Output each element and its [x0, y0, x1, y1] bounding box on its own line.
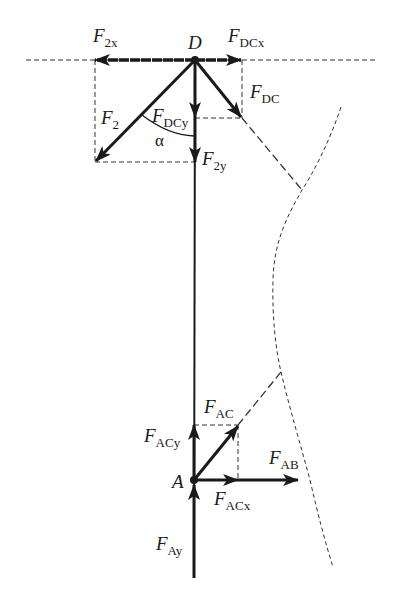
label-f2y: F2y: [201, 148, 227, 173]
label-f2x: F2x: [92, 25, 118, 50]
label-fdc: FDC: [249, 81, 280, 106]
member-dc-extension: [242, 118, 302, 190]
arrow-fac: [194, 426, 238, 480]
member-lines: [238, 118, 302, 425]
diagram-canvas: D A F2x FDCx FDC F2 FDCy α F2y FAC FACy …: [0, 0, 394, 606]
label-fac: FAC: [203, 396, 234, 421]
joint-a: [190, 476, 198, 484]
label-f2: F2: [100, 107, 119, 132]
force-diagram: D A F2x FDCx FDC F2 FDCy α F2y FAC FACy …: [0, 0, 394, 606]
arrow-fdc: [195, 60, 241, 117]
label-fdcx: FDCx: [227, 25, 265, 50]
label-alpha: α: [155, 131, 164, 150]
label-fay: FAy: [155, 533, 183, 558]
label-facx: FACx: [213, 488, 251, 513]
construction-lines: [26, 60, 375, 480]
label-node-a: A: [170, 471, 184, 492]
label-facy: FACy: [143, 425, 181, 450]
label-fab: FAB: [268, 447, 299, 472]
forces-at-d: [95, 60, 241, 162]
label-fdcy: FDCy: [151, 105, 189, 130]
section-cut-curve: [273, 107, 341, 567]
member-ac-extension: [238, 372, 281, 425]
label-node-d: D: [187, 32, 202, 53]
joint-d: [191, 56, 199, 64]
